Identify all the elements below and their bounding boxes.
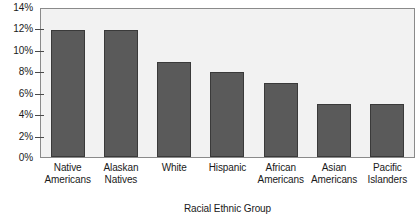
x-axis-tick-labels: NativeAmericansAlaskanNativesWhiteHispan… xyxy=(41,162,414,196)
bar-slot xyxy=(148,9,201,157)
y-axis-tick-label: 14% xyxy=(13,3,33,13)
x-axis-tick-label-line: Americans xyxy=(254,174,307,186)
x-axis-tick-label-line: Americans xyxy=(307,174,360,186)
y-axis-tick-mark xyxy=(35,72,44,73)
x-axis-tick-label-line: Asian xyxy=(307,162,360,174)
x-axis-tick-label: AlaskanNatives xyxy=(94,162,147,185)
x-axis-tick-label-line: Pacific xyxy=(361,162,414,174)
x-axis-tick-label: White xyxy=(148,162,201,174)
y-axis-tick-mark xyxy=(35,94,44,95)
bar xyxy=(51,30,85,157)
bar xyxy=(157,62,191,157)
x-axis-tick-label-line: Islanders xyxy=(361,174,414,186)
y-axis-tick-mark xyxy=(35,29,44,30)
y-axis-tick-label: 4% xyxy=(19,110,33,120)
y-axis-tick-label: 8% xyxy=(19,67,33,77)
y-axis-tick-label: 0% xyxy=(19,153,33,163)
x-axis-tick-label: NativeAmericans xyxy=(41,162,94,185)
x-axis-tick-label-line: Hispanic xyxy=(201,162,254,174)
bar-chart: 0%2%4%6%8%10%12%14% NativeAmericansAlask… xyxy=(0,0,419,215)
x-axis-tick-label: Hispanic xyxy=(201,162,254,174)
x-axis-tick-label: AsianAmericans xyxy=(307,162,360,185)
bar-slot xyxy=(361,9,414,157)
y-axis-tick-label: 2% xyxy=(19,132,33,142)
bar-slot xyxy=(307,9,360,157)
y-axis-tick-labels: 0%2%4%6%8%10%12%14% xyxy=(0,8,33,158)
y-axis-tick-label: 6% xyxy=(19,89,33,99)
bar-slot xyxy=(41,9,94,157)
x-axis-tick-label-line: Native xyxy=(41,162,94,174)
bar xyxy=(317,104,351,157)
x-axis-tick-label-line: Alaskan xyxy=(94,162,147,174)
bar-slot xyxy=(254,9,307,157)
x-axis-tick-label-line: African xyxy=(254,162,307,174)
bar-slot xyxy=(94,9,147,157)
bar xyxy=(104,30,138,157)
y-axis-tick-mark xyxy=(35,51,44,52)
bar xyxy=(370,104,404,157)
y-axis-tick-label: 12% xyxy=(13,24,33,34)
bar-slot xyxy=(201,9,254,157)
x-axis-tick-label-line: Americans xyxy=(41,174,94,186)
y-axis-tick-mark xyxy=(35,115,44,116)
bar xyxy=(264,83,298,157)
bar xyxy=(210,72,244,157)
x-axis-tick-label: PacificIslanders xyxy=(361,162,414,185)
x-axis-tick-label-line: Natives xyxy=(94,174,147,186)
x-axis-title: Racial Ethnic Group xyxy=(41,203,414,215)
y-axis-tick-label: 10% xyxy=(13,46,33,56)
x-axis-tick-label-line: White xyxy=(148,162,201,174)
x-axis-tick-label: AfricanAmericans xyxy=(254,162,307,185)
bars-container xyxy=(41,9,414,157)
y-axis-tick-mark xyxy=(35,137,44,138)
